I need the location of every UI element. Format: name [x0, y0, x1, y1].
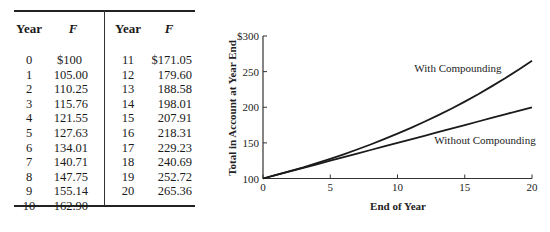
label-with-compounding: With Compounding [414, 62, 502, 74]
x-tick-label: 15 [459, 181, 471, 193]
x-axis-title: End of Year [370, 200, 426, 212]
x-tick-label: 20 [527, 181, 539, 193]
y-tick-label: 200 [243, 101, 260, 113]
y-tick-label: 250 [243, 66, 260, 78]
y-tick-label: 150 [243, 137, 260, 149]
y-tick-label: $300 [237, 30, 260, 42]
x-tick-label: 0 [260, 181, 266, 193]
y-tick-label: 100 [243, 173, 260, 185]
chart-series [263, 61, 532, 179]
compounding-line-chart: 05101520100150200250$300 With Compoundin… [0, 0, 550, 232]
x-tick-label: 5 [328, 181, 334, 193]
y-axis-title: Total in Account at Year End [226, 40, 238, 176]
chart-axes: 05101520100150200250$300 [237, 30, 538, 193]
label-without-compounding: Without Compounding [434, 134, 536, 146]
with-compounding-line [263, 61, 532, 179]
x-tick-label: 10 [392, 181, 404, 193]
